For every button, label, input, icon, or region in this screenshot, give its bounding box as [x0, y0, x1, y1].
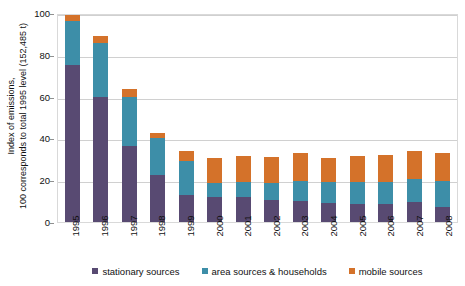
x-tick-cell-2006: 2006: [379, 224, 394, 260]
x-tick-label-2008: 2008: [444, 215, 454, 236]
y-tick-label-20: 20: [39, 176, 50, 186]
x-tick-cell-2001: 2001: [236, 224, 251, 260]
legend-swatch-icon-2: [349, 268, 355, 274]
bar-segment-1995-stationary-sources[interactable]: [65, 65, 80, 222]
bar-segment-2004-mobile-sources[interactable]: [321, 158, 336, 182]
legend-swatch-icon-0: [92, 268, 98, 274]
y-tick-mark-20: [50, 181, 54, 182]
bar-segment-2006-area-sources-households[interactable]: [378, 182, 393, 204]
y-axis-title-line-2: 100 corresponds to total 1995 level (152…: [17, 23, 29, 209]
bar-segment-1999-area-sources-households[interactable]: [179, 161, 194, 194]
bars-layer: [58, 15, 457, 222]
bar-segment-2005-area-sources-households[interactable]: [350, 182, 365, 204]
bar-group-2008[interactable]: [435, 15, 450, 222]
bar-group-1995[interactable]: [65, 15, 80, 222]
bar-segment-2003-mobile-sources[interactable]: [293, 153, 308, 181]
bar-segment-1999-mobile-sources[interactable]: [179, 151, 194, 161]
bar-group-1997[interactable]: [122, 15, 137, 222]
x-tick-cell-2003: 2003: [293, 224, 308, 260]
x-tick-cell-1996: 1996: [92, 224, 107, 260]
x-tick-cell-2008: 2008: [436, 224, 451, 260]
y-tick-label-60: 60: [39, 93, 50, 103]
bar-segment-2000-mobile-sources[interactable]: [207, 158, 222, 183]
x-tick-cell-1995: 1995: [64, 224, 79, 260]
x-tick-cell-2004: 2004: [322, 224, 337, 260]
emissions-index-stacked-bar-chart: Index of emissions, 100 corresponds to t…: [0, 0, 465, 286]
x-tick-cell-1998: 1998: [150, 224, 165, 260]
x-tick-label-1999: 1999: [186, 215, 196, 236]
x-tick-label-2001: 2001: [243, 215, 253, 236]
x-tick-label-2000: 2000: [215, 215, 225, 236]
x-tick-label-1995: 1995: [71, 215, 81, 236]
bar-group-2005[interactable]: [350, 15, 365, 222]
x-tick-cell-2002: 2002: [264, 224, 279, 260]
x-tick-cell-2000: 2000: [207, 224, 222, 260]
bar-segment-2001-mobile-sources[interactable]: [236, 156, 251, 182]
bar-segment-2008-area-sources-households[interactable]: [435, 181, 450, 207]
y-tick-mark-60: [50, 98, 54, 99]
bar-group-2001[interactable]: [236, 15, 251, 222]
bar-segment-1997-mobile-sources[interactable]: [122, 89, 137, 96]
y-axis-tick-labels: 020406080100: [30, 0, 54, 240]
x-tick-label-2004: 2004: [329, 215, 339, 236]
bar-segment-1996-stationary-sources[interactable]: [93, 97, 108, 222]
x-tick-label-1998: 1998: [157, 215, 167, 236]
bar-segment-2003-area-sources-households[interactable]: [293, 181, 308, 200]
bar-group-2003[interactable]: [293, 15, 308, 222]
bar-segment-2008-mobile-sources[interactable]: [435, 153, 450, 181]
bar-segment-2000-area-sources-households[interactable]: [207, 183, 222, 196]
y-tick-mark-40: [50, 139, 54, 140]
bar-segment-2002-mobile-sources[interactable]: [264, 157, 279, 182]
legend-label-0: stationary sources: [102, 266, 179, 277]
bar-group-2000[interactable]: [207, 15, 222, 222]
bar-segment-1996-mobile-sources[interactable]: [93, 36, 108, 43]
bar-segment-2005-mobile-sources[interactable]: [350, 156, 365, 181]
x-tick-cell-1997: 1997: [121, 224, 136, 260]
x-tick-label-2003: 2003: [300, 215, 310, 236]
x-tick-cell-2005: 2005: [350, 224, 365, 260]
bar-group-1998[interactable]: [150, 15, 165, 222]
bar-segment-2002-area-sources-households[interactable]: [264, 183, 279, 200]
x-tick-label-2002: 2002: [272, 215, 282, 236]
bar-group-2004[interactable]: [321, 15, 336, 222]
bar-segment-2007-area-sources-households[interactable]: [407, 179, 422, 202]
y-tick-mark-100: [50, 14, 54, 15]
x-axis-tick-labels: 1995199619971998199920002001200220032004…: [57, 224, 458, 260]
bar-segment-1997-stationary-sources[interactable]: [122, 146, 137, 222]
bar-segment-2004-area-sources-households[interactable]: [321, 182, 336, 203]
x-tick-label-1996: 1996: [100, 215, 110, 236]
bar-segment-1998-area-sources-households[interactable]: [150, 138, 165, 175]
bar-segment-2001-area-sources-households[interactable]: [236, 182, 251, 197]
y-axis-title-line-1: Index of emissions,: [5, 23, 17, 209]
chart-legend: stationary sourcesarea sources & househo…: [57, 263, 458, 279]
bar-segment-1997-area-sources-households[interactable]: [122, 97, 137, 146]
bar-segment-2007-mobile-sources[interactable]: [407, 151, 422, 179]
legend-item-0[interactable]: stationary sources: [92, 266, 179, 277]
y-tick-label-40: 40: [39, 135, 50, 145]
x-tick-label-2007: 2007: [415, 215, 425, 236]
bar-group-2002[interactable]: [264, 15, 279, 222]
bar-group-2006[interactable]: [378, 15, 393, 222]
bar-segment-2006-mobile-sources[interactable]: [378, 155, 393, 182]
x-tick-label-2005: 2005: [358, 215, 368, 236]
x-tick-cell-1999: 1999: [178, 224, 193, 260]
legend-label-1: area sources & households: [212, 266, 327, 277]
y-tick-mark-80: [50, 56, 54, 57]
legend-item-1[interactable]: area sources & households: [202, 266, 327, 277]
legend-item-2[interactable]: mobile sources: [349, 266, 423, 277]
y-tick-label-100: 100: [34, 9, 50, 19]
bar-group-1999[interactable]: [179, 15, 194, 222]
x-tick-label-2006: 2006: [386, 215, 396, 236]
bar-group-1996[interactable]: [93, 15, 108, 222]
legend-label-2: mobile sources: [359, 266, 423, 277]
bar-segment-1995-area-sources-households[interactable]: [65, 21, 80, 64]
y-tick-label-80: 80: [39, 51, 50, 61]
bar-group-2007[interactable]: [407, 15, 422, 222]
x-tick-cell-2007: 2007: [408, 224, 423, 260]
x-tick-label-1997: 1997: [129, 215, 139, 236]
legend-swatch-icon-1: [202, 268, 208, 274]
y-tick-mark-0: [50, 223, 54, 224]
y-axis-title: Index of emissions, 100 corresponds to t…: [0, 0, 34, 232]
bar-segment-1996-area-sources-households[interactable]: [93, 43, 108, 97]
plot-area: [57, 14, 458, 223]
